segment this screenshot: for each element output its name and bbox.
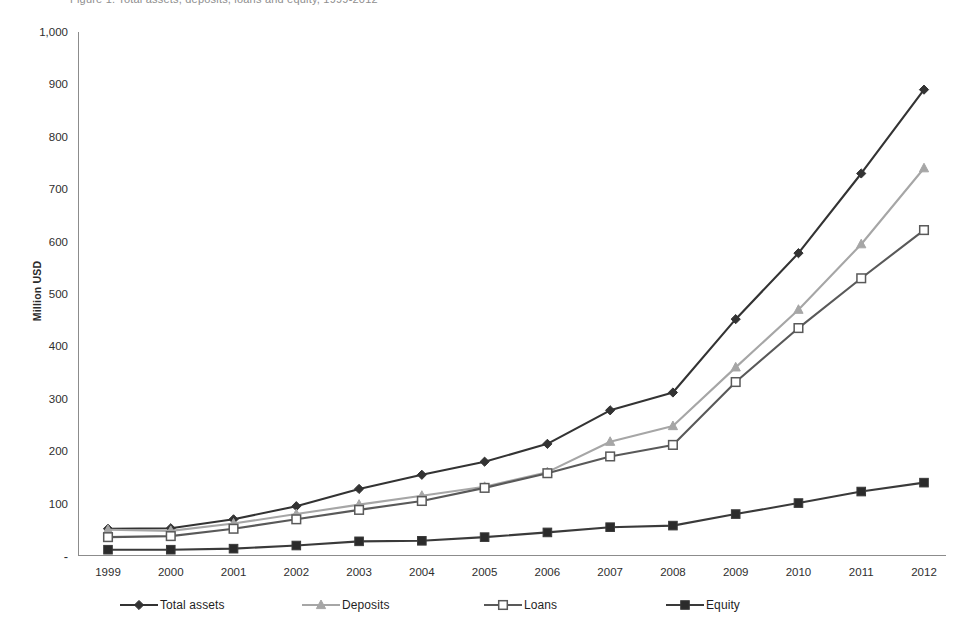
data-point	[606, 406, 615, 415]
series-line	[108, 483, 924, 550]
data-point	[920, 478, 929, 487]
data-point	[543, 528, 552, 537]
data-point	[920, 226, 929, 235]
data-point	[292, 515, 301, 524]
legend-entry-total-assets[interactable]: Total assets	[114, 598, 296, 612]
legend-marker-diamond-icon	[118, 598, 160, 612]
data-point	[480, 484, 489, 493]
data-point	[418, 537, 427, 546]
data-point	[543, 469, 552, 478]
data-point	[166, 532, 175, 541]
series-loans	[104, 226, 929, 542]
legend-label: Loans	[524, 598, 557, 612]
data-point	[857, 487, 866, 496]
figure-root: Figure 1. Total assets, deposits, loans …	[0, 0, 956, 632]
legend-entry-loans[interactable]: Loans	[478, 598, 660, 612]
series-deposits	[103, 163, 928, 534]
series-line	[108, 230, 924, 537]
data-point	[418, 497, 427, 506]
data-point	[731, 378, 740, 387]
data-point	[543, 439, 552, 448]
data-point	[731, 510, 740, 519]
data-point	[355, 506, 364, 515]
data-point	[480, 533, 489, 542]
data-point	[919, 163, 928, 172]
series-line	[108, 168, 924, 531]
data-point	[857, 274, 866, 283]
data-point	[794, 324, 803, 333]
legend-entry-equity[interactable]: Equity	[660, 598, 842, 612]
data-point	[104, 533, 113, 542]
legend-entry-deposits[interactable]: Deposits	[296, 598, 478, 612]
data-point	[355, 537, 364, 546]
data-point	[229, 524, 238, 533]
data-point	[794, 499, 803, 508]
data-point	[606, 452, 615, 461]
data-point	[480, 457, 489, 466]
data-point	[606, 523, 615, 532]
legend-marker-square-icon	[664, 598, 706, 612]
data-point	[229, 544, 238, 553]
data-point	[669, 441, 678, 450]
legend-label: Equity	[706, 598, 740, 612]
data-point	[354, 484, 363, 493]
legend-label: Total assets	[160, 598, 225, 612]
legend-marker-triangle-icon	[300, 598, 342, 612]
series-total-assets	[103, 85, 928, 533]
series-line	[108, 90, 924, 529]
data-point	[669, 521, 678, 530]
data-point	[417, 470, 426, 479]
data-point	[292, 541, 301, 550]
series-equity	[104, 478, 929, 554]
legend-label: Deposits	[342, 598, 390, 612]
data-point	[166, 545, 175, 554]
legend-marker-square-open-icon	[482, 598, 524, 612]
chart-series-canvas	[0, 0, 956, 632]
chart-legend: Total assetsDepositsLoansEquity	[0, 598, 956, 612]
data-point	[104, 545, 113, 554]
